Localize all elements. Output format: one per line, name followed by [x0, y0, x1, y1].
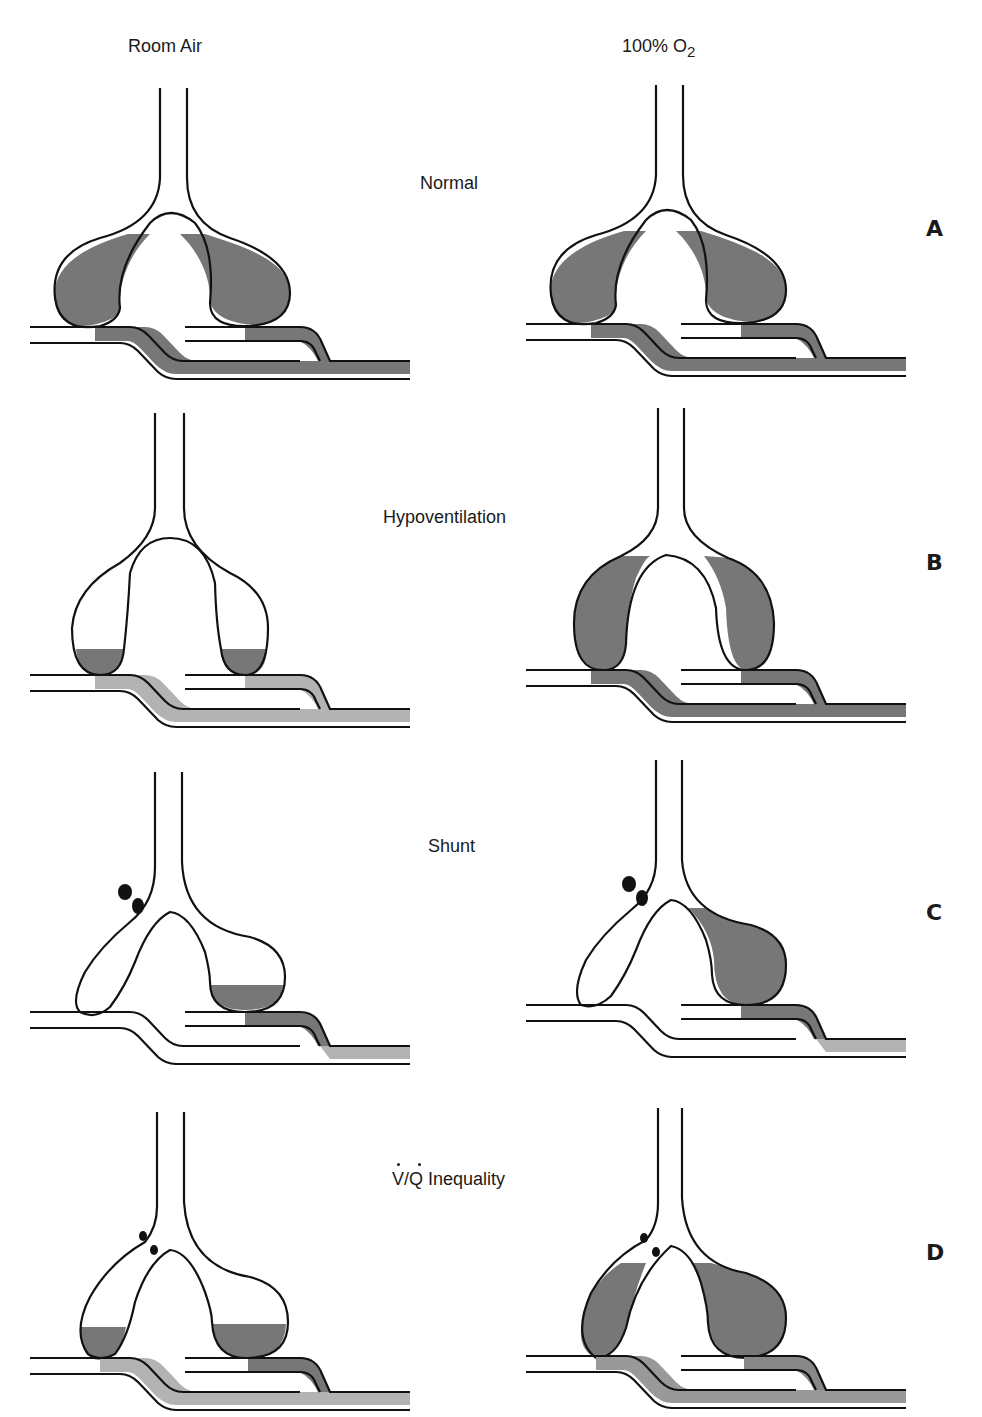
panel-d-100-o2 — [526, 1108, 906, 1408]
panel-d-room-air — [30, 1112, 410, 1410]
lung-left-alveolus-fill — [54, 234, 150, 326]
panel-c-room-air — [30, 772, 410, 1064]
panel-a-100-o2 — [526, 85, 906, 376]
lung-right-alveolus-fill — [180, 234, 290, 325]
panel-c-100-o2 — [526, 760, 906, 1057]
panel-b-room-air — [30, 413, 410, 727]
airway-obstruction-1 — [118, 884, 132, 900]
panel-a-room-air — [30, 88, 410, 379]
diagram-canvas — [0, 0, 982, 1417]
panel-b-100-o2 — [526, 408, 906, 722]
airway-obstruction-2 — [132, 898, 144, 914]
